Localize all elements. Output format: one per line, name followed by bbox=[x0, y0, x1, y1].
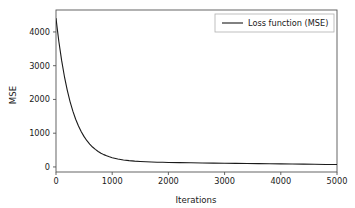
x-tick-label: 5000 bbox=[327, 176, 348, 186]
x-tick-label: 1000 bbox=[102, 176, 123, 186]
y-tick-label: 3000 bbox=[29, 61, 50, 71]
x-tick-label: 2000 bbox=[158, 176, 179, 186]
x-tick-label: 0 bbox=[53, 176, 58, 186]
chart-legend: Loss function (MSE) bbox=[215, 14, 334, 32]
y-tick-label: 2000 bbox=[29, 94, 50, 104]
y-axis-title: MSE bbox=[8, 86, 18, 104]
legend-label: Loss function (MSE) bbox=[248, 18, 328, 28]
y-tick-label: 4000 bbox=[29, 27, 50, 37]
chart-figure: 010002000300040005000 01000200030004000 … bbox=[0, 0, 355, 208]
x-tick-label: 4000 bbox=[270, 176, 291, 186]
x-axis-title: Iterations bbox=[176, 195, 217, 205]
y-tick-label: 0 bbox=[45, 162, 50, 172]
line-chart-canvas: 010002000300040005000 01000200030004000 … bbox=[0, 0, 355, 208]
x-tick-label: 3000 bbox=[214, 176, 235, 186]
y-tick-label: 1000 bbox=[29, 128, 50, 138]
